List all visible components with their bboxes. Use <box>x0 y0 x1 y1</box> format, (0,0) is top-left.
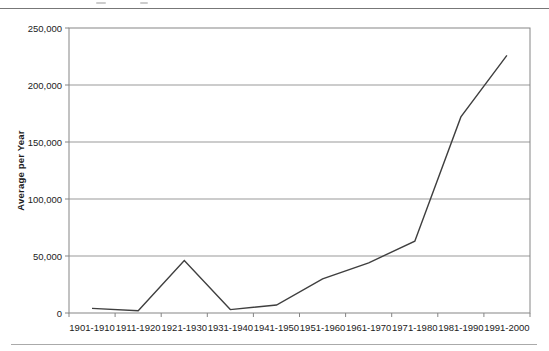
y-tick-label: 150,000 <box>28 137 62 148</box>
x-tick-label: 1921-1930 <box>162 322 207 333</box>
x-tick-label: 1901-1910 <box>69 322 114 333</box>
y-tick-label: 100,000 <box>28 194 62 205</box>
x-tick-label: 1961-1970 <box>346 322 391 333</box>
x-tick-label: 1991-2000 <box>484 322 529 333</box>
y-tick-label: 200,000 <box>28 80 62 91</box>
x-tick-label: 1941-1950 <box>254 322 299 333</box>
line-chart-canvas: 050,000100,000150,000200,000250,0001901-… <box>0 0 549 351</box>
y-tick-label: 250,000 <box>28 23 62 34</box>
y-axis-title: Average per Year <box>15 101 28 241</box>
data-line <box>92 55 507 310</box>
bottom-page-rule <box>11 344 537 345</box>
x-tick-label: 1911-1920 <box>116 322 161 333</box>
y-tick-label: 0 <box>57 308 62 319</box>
plot-border <box>69 28 530 313</box>
y-tick-label: 50,000 <box>33 251 62 262</box>
x-tick-label: 1981-1990 <box>438 322 483 333</box>
chart-page: 050,000100,000150,000200,000250,0001901-… <box>0 0 549 351</box>
x-tick-label: 1951-1960 <box>300 322 345 333</box>
x-tick-label: 1931-1940 <box>208 322 253 333</box>
x-tick-label: 1971-1980 <box>392 322 437 333</box>
